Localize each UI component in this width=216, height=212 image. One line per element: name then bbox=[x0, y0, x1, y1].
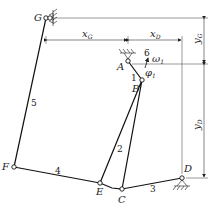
label-A: A bbox=[116, 61, 124, 72]
ground-support-A bbox=[119, 49, 136, 59]
links bbox=[14, 18, 182, 189]
label-E: E bbox=[95, 186, 104, 197]
link-label-6: 6 bbox=[144, 48, 150, 58]
dimension-yD-label: yD bbox=[191, 119, 203, 131]
label-C: C bbox=[118, 194, 126, 205]
joint-D bbox=[180, 176, 184, 180]
omega-label: ω1 bbox=[152, 53, 164, 65]
link-2 bbox=[100, 80, 142, 189]
ground-support-D bbox=[173, 180, 190, 190]
label-G: G bbox=[34, 12, 42, 23]
joint-F bbox=[12, 165, 16, 169]
joint-C bbox=[120, 187, 124, 191]
link-label-3: 3 bbox=[150, 184, 156, 194]
mechanism-diagram: xG xD yG yD bbox=[0, 0, 216, 212]
dimension-yG-label: yG bbox=[191, 33, 203, 45]
reference-lines bbox=[46, 18, 208, 178]
link-label-2: 2 bbox=[117, 144, 123, 154]
label-D: D bbox=[183, 163, 192, 174]
link-5 bbox=[14, 18, 46, 167]
joint-G2 bbox=[48, 16, 52, 20]
dimension-xD-label: xD bbox=[150, 28, 161, 40]
link-label-5: 5 bbox=[31, 98, 37, 108]
dimension-xG-label: xG bbox=[82, 28, 93, 40]
label-F: F bbox=[1, 161, 10, 172]
phi-label: φ1 bbox=[145, 67, 156, 79]
joint-E bbox=[98, 181, 102, 185]
joint-B bbox=[140, 78, 144, 82]
link-label-1: 1 bbox=[131, 73, 137, 83]
joints bbox=[12, 16, 184, 191]
link-label-4: 4 bbox=[55, 166, 61, 176]
joint-A bbox=[126, 59, 130, 63]
label-B: B bbox=[131, 83, 139, 94]
